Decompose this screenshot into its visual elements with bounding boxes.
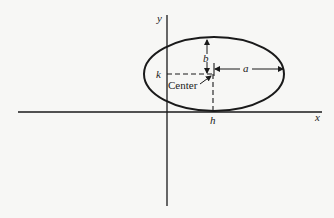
center-label: Center bbox=[168, 79, 198, 91]
diagram-svg: y x k h b a Center bbox=[0, 0, 334, 218]
center-leader-line bbox=[200, 76, 211, 84]
h-label: h bbox=[210, 114, 216, 126]
k-label: k bbox=[156, 68, 162, 80]
ellipse-diagram: y x k h b a Center bbox=[0, 0, 334, 218]
x-axis-label: x bbox=[314, 111, 320, 123]
y-axis-label: y bbox=[156, 12, 162, 24]
b-label: b bbox=[203, 52, 209, 64]
a-label: a bbox=[243, 62, 249, 74]
